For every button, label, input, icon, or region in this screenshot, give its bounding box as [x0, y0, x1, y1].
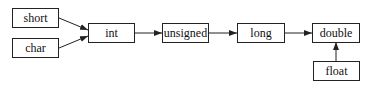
- node-unsigned: unsigned: [162, 23, 209, 43]
- type-conversion-diagram: short char int unsigned long double floa…: [0, 0, 375, 85]
- arrow-char-to-int: [59, 36, 88, 48]
- arrow-short-to-int: [59, 18, 88, 30]
- node-long: long: [237, 23, 285, 43]
- node-float: float: [313, 61, 360, 81]
- node-short: short: [12, 8, 59, 28]
- node-char: char: [12, 38, 59, 58]
- node-int: int: [88, 23, 135, 43]
- node-double: double: [312, 23, 360, 43]
